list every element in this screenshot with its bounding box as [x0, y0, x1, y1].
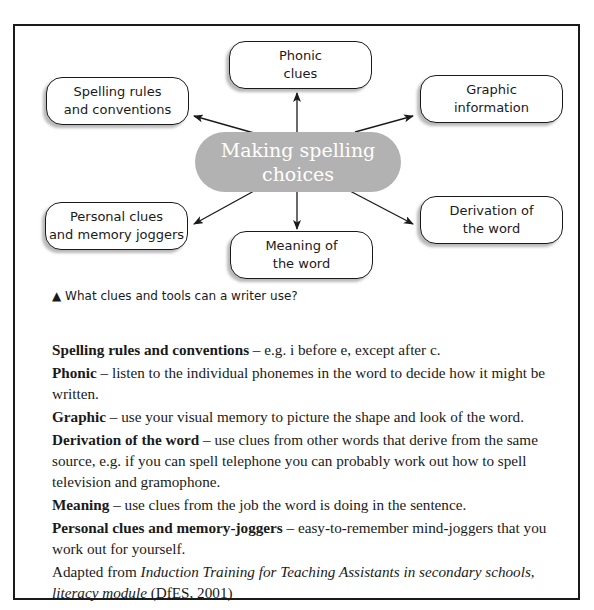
- node-label: and memory joggers: [49, 226, 184, 244]
- separator: –: [106, 408, 121, 425]
- node-label: Meaning of: [265, 237, 337, 255]
- node-label: clues: [284, 65, 318, 83]
- arrow-to-graphic: [355, 116, 413, 132]
- definition-item: Meaning – use clues from the job the wor…: [52, 494, 568, 515]
- caption-text: What clues and tools can a writer use?: [65, 289, 298, 303]
- node-label: Spelling rules: [74, 83, 162, 101]
- definition-term: Personal clues and memory-joggers: [52, 519, 283, 536]
- separator: –: [199, 431, 214, 448]
- node-label: information: [454, 99, 529, 117]
- center-label: Making spelling: [221, 138, 376, 162]
- center-label: choices: [262, 162, 334, 186]
- definitions-list: Spelling rules and conventions – e.g. i …: [52, 339, 568, 605]
- definition-term: Graphic: [52, 408, 106, 425]
- citation-suffix: (DfES, 2001): [147, 584, 233, 601]
- source-citation: Adapted from Induction Training for Teac…: [52, 561, 568, 603]
- separator: –: [109, 496, 124, 513]
- node-graphic-information: Graphic information: [420, 75, 563, 123]
- node-label: the word: [463, 220, 520, 238]
- node-derivation-of-word: Derivation of the word: [420, 196, 563, 244]
- arrow-to-personal: [194, 191, 254, 224]
- definition-item: Phonic – listen to the individual phonem…: [52, 362, 568, 404]
- definition-text: use clues from the job the word is doing…: [125, 496, 467, 513]
- definition-term: Meaning: [52, 496, 109, 513]
- citation-prefix: Adapted from: [52, 563, 141, 580]
- definition-text: use your visual memory to picture the sh…: [121, 408, 524, 425]
- definition-item: Personal clues and memory-joggers – easy…: [52, 517, 568, 559]
- definition-term: Derivation of the word: [52, 431, 199, 448]
- node-label: and conventions: [64, 101, 172, 119]
- definition-text: e.g. i before e, except after c.: [264, 341, 440, 358]
- node-meaning-of-word: Meaning of the word: [230, 231, 373, 279]
- definition-item: Graphic – use your visual memory to pict…: [52, 406, 568, 427]
- node-phonic-clues: Phonic clues: [229, 41, 372, 89]
- separator: –: [249, 341, 264, 358]
- center-node-making-spelling-choices: Making spelling choices: [195, 132, 401, 192]
- node-label: Personal clues: [70, 208, 163, 226]
- node-label: Phonic: [279, 47, 322, 65]
- definition-term: Phonic: [52, 364, 97, 381]
- node-spelling-rules: Spelling rules and conventions: [46, 77, 189, 125]
- node-label: the word: [273, 255, 330, 273]
- figure-caption: ▲ What clues and tools can a writer use?: [52, 289, 298, 303]
- definition-term: Spelling rules and conventions: [52, 341, 249, 358]
- definition-text: listen to the individual phonemes in the…: [52, 364, 545, 402]
- arrow-to-derivation: [350, 191, 413, 224]
- arrow-to-spelling-rules: [194, 116, 254, 133]
- node-label: Graphic: [466, 81, 517, 99]
- separator: –: [97, 364, 112, 381]
- definition-item: Spelling rules and conventions – e.g. i …: [52, 339, 568, 360]
- definition-item: Derivation of the word – use clues from …: [52, 429, 568, 492]
- triangle-icon: ▲: [52, 289, 61, 303]
- node-personal-clues: Personal clues and memory joggers: [45, 202, 188, 250]
- separator: –: [283, 519, 298, 536]
- node-label: Derivation of: [449, 202, 533, 220]
